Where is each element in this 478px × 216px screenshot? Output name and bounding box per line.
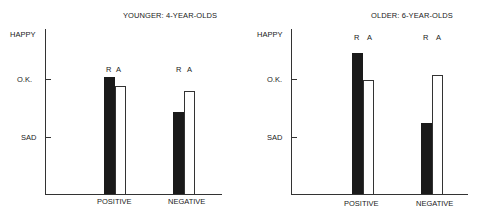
bar-positive-a — [363, 80, 374, 194]
y-label-sad: SAD — [21, 133, 36, 142]
bar-negative-a — [184, 91, 195, 194]
chart-older: OLDER: 6-YEAR-OLDS HAPPY O.K. SAD R A R … — [240, 0, 478, 216]
y-axis — [45, 29, 46, 195]
y-label-ok: O.K. — [17, 75, 32, 84]
bar-label-a: A — [187, 65, 192, 74]
x-label-negative: NEGATIVE — [416, 199, 453, 208]
y-label-ok: O.K. — [267, 75, 282, 84]
x-label-positive: POSITIVE — [97, 197, 132, 206]
bar-label-a: A — [116, 65, 121, 74]
x-axis — [45, 194, 222, 195]
tick-sad — [292, 137, 297, 138]
bar-label-r: R — [423, 33, 428, 42]
bar-positive-a — [115, 86, 126, 194]
chart-title: YOUNGER: 4-YEAR-OLDS — [123, 11, 217, 20]
x-label-negative: NEGATIVE — [168, 197, 205, 206]
bar-label-a: A — [367, 33, 372, 42]
bar-label-r: R — [354, 33, 359, 42]
tick-sad — [46, 137, 51, 138]
bar-positive-r — [104, 77, 115, 194]
bar-positive-r — [352, 53, 363, 194]
x-label-positive: POSITIVE — [344, 199, 379, 208]
bar-label-r: R — [106, 65, 111, 74]
y-label-happy: HAPPY — [257, 30, 282, 39]
chart-younger: YOUNGER: 4-YEAR-OLDS HAPPY O.K. SAD R A … — [0, 0, 240, 216]
tick-ok — [292, 79, 297, 80]
bar-negative-a — [432, 75, 443, 194]
bar-negative-r — [421, 123, 432, 194]
y-label-sad: SAD — [267, 133, 282, 142]
chart-title: OLDER: 6-YEAR-OLDS — [371, 11, 453, 20]
y-axis — [291, 29, 292, 195]
x-axis — [291, 194, 468, 195]
bar-label-r: R — [176, 65, 181, 74]
tick-ok — [46, 79, 51, 80]
bar-negative-r — [173, 112, 184, 194]
bar-label-a: A — [436, 33, 441, 42]
y-label-happy: HAPPY — [10, 30, 35, 39]
